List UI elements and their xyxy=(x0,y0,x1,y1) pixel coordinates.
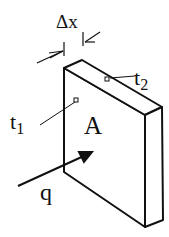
t1-sub: 1 xyxy=(16,120,24,137)
dim-arrow-right xyxy=(85,32,100,42)
heat-flux-label: q xyxy=(40,180,52,204)
slab-side-face xyxy=(145,107,163,227)
t2-sub: 2 xyxy=(140,76,148,93)
t2-leader xyxy=(110,76,135,78)
t2-point xyxy=(105,77,109,81)
area-label: A xyxy=(84,113,102,138)
t1-point xyxy=(74,98,78,102)
slab-diagram: Δx t2 t1 A q xyxy=(0,0,169,237)
t1-label: t1 xyxy=(10,111,24,137)
thickness-label: Δx xyxy=(56,12,78,31)
t2-label: t2 xyxy=(134,67,148,93)
